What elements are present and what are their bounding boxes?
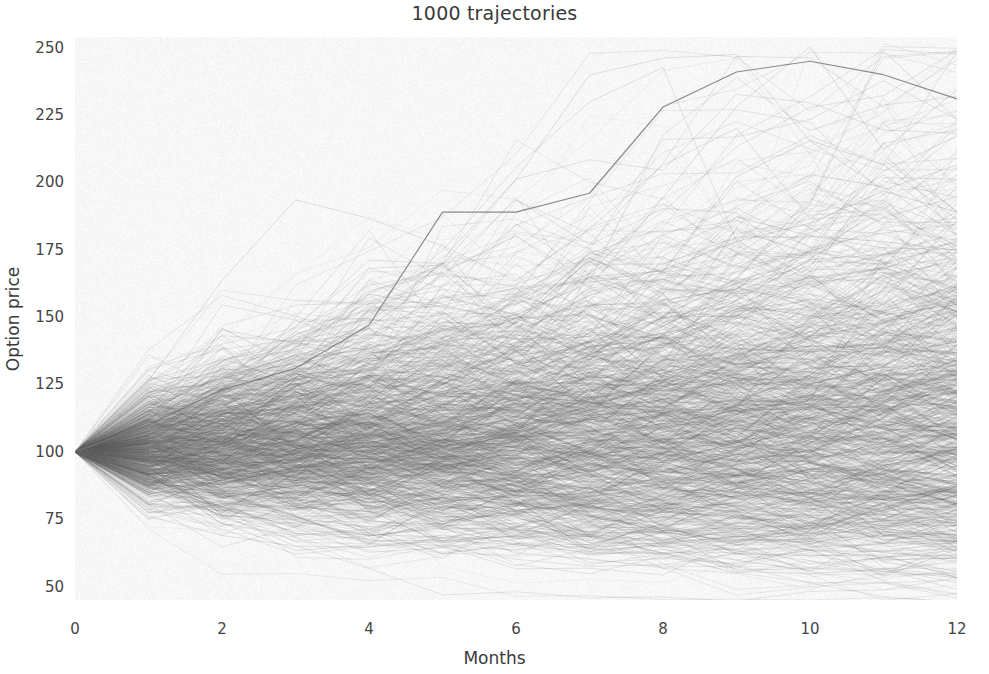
x-tick-label: 10 (780, 620, 840, 638)
x-tick-label: 8 (633, 620, 693, 638)
y-axis-label: Option price (3, 266, 23, 370)
x-tick-label: 4 (339, 620, 399, 638)
x-axis-label: Months (0, 648, 989, 668)
x-tick-label: 0 (45, 620, 105, 638)
chart-title: 1000 trajectories (0, 2, 989, 24)
trajectories-plot (75, 37, 957, 600)
x-tick-label: 6 (486, 620, 546, 638)
plot-area (75, 37, 957, 600)
y-axis-label-container: Option price (0, 37, 26, 600)
x-tick-label: 12 (927, 620, 987, 638)
x-axis-tick-labels: 024681012 (0, 620, 989, 644)
x-tick-label: 2 (192, 620, 252, 638)
chart-figure: 1000 trajectories 5075100125150175200225… (0, 0, 989, 674)
